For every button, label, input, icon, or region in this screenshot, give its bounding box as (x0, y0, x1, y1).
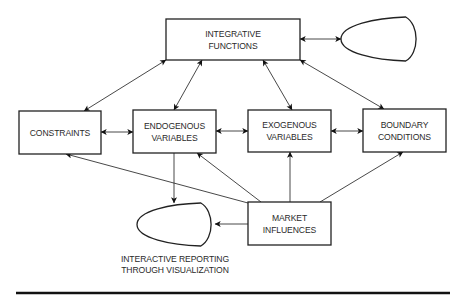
boundary-box (363, 109, 446, 152)
node-market: MARKETINFLUENCES (248, 202, 331, 245)
exogenous-label-line-2: VARIABLES (266, 132, 313, 142)
integrative-label-line-1: INTEGRATIVE (205, 29, 261, 39)
node-constraints: CONSTRAINTS (19, 111, 101, 154)
edge-boundary-to-integrative (300, 60, 384, 109)
boundary-label-line-2: CONDITIONS (378, 132, 431, 142)
edge-endogenous-to-integrative (174, 60, 202, 110)
edge-constraints-to-integrative (84, 60, 166, 111)
market-label-line-2: INFLUENCES (263, 225, 317, 235)
node-integrative-output (341, 17, 416, 61)
reporting-caption-line-1: INTERACTIVE REPORTING (121, 254, 229, 264)
diagram-canvas: INTEGRATIVEFUNCTIONSCONSTRAINTSENDOGENOU… (0, 0, 464, 304)
market-box (248, 202, 331, 245)
captions-layer: INTERACTIVE REPORTING THROUGH VISUALIZAT… (121, 254, 229, 275)
endogenous-label-line-1: ENDOGENOUS (144, 121, 205, 131)
market-label-line-1: MARKET (272, 213, 308, 223)
node-reporting (137, 203, 211, 246)
edge-exogenous-to-integrative (263, 60, 292, 110)
endogenous-box (133, 110, 216, 153)
exogenous-label-line-1: EXOGENOUS (262, 120, 317, 130)
reporting-caption-line-2: THROUGH VISUALIZATION (121, 265, 229, 275)
edge-market-to-boundary (320, 152, 403, 202)
edge-market-to-endogenous (197, 153, 261, 202)
reporting-terminal-shape (137, 203, 211, 246)
endogenous-label-line-2: VARIABLES (151, 133, 198, 143)
node-integrative: INTEGRATIVEFUNCTIONS (166, 19, 300, 60)
edge-market-to-constraints (66, 154, 248, 203)
constraints-label-line-1: CONSTRAINTS (30, 128, 91, 138)
node-boundary: BOUNDARYCONDITIONS (363, 109, 446, 152)
integrative-box (166, 19, 300, 60)
boundary-label-line-1: BOUNDARY (381, 120, 429, 130)
edges-layer (66, 39, 403, 224)
exogenous-box (248, 110, 331, 152)
nodes-layer: INTEGRATIVEFUNCTIONSCONSTRAINTSENDOGENOU… (19, 17, 446, 246)
node-endogenous: ENDOGENOUSVARIABLES (133, 110, 216, 153)
node-exogenous: EXOGENOUSVARIABLES (248, 110, 331, 152)
integrative-label-line-2: FUNCTIONS (208, 41, 258, 51)
integrative-output-terminal-shape (341, 17, 416, 61)
